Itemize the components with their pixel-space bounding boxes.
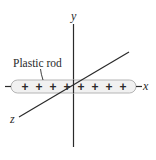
rod-label-leader bbox=[41, 69, 44, 80]
positive-charge: + bbox=[21, 80, 28, 94]
rod-diagram: y x ++++++++ z Plastic rod bbox=[0, 0, 156, 160]
z-axis-label: z bbox=[9, 112, 15, 126]
positive-charge: + bbox=[91, 80, 98, 94]
x-axis-label: x bbox=[142, 79, 149, 93]
y-axis-label: y bbox=[70, 9, 77, 23]
positive-charge: + bbox=[35, 80, 42, 94]
positive-charge: + bbox=[119, 80, 126, 94]
rod-label: Plastic rod bbox=[13, 57, 62, 69]
positive-charge: + bbox=[105, 80, 112, 94]
positive-charge: + bbox=[49, 80, 56, 94]
